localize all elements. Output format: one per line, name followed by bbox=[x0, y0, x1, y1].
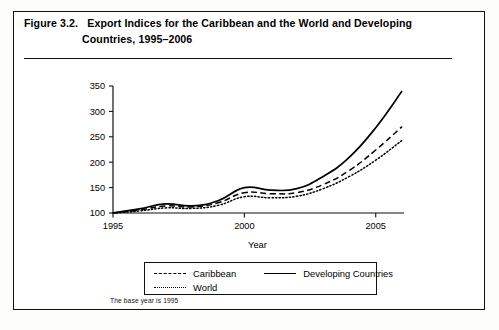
legend-label-world: World bbox=[193, 282, 217, 293]
dotted-line-icon bbox=[154, 282, 186, 292]
legend-item-caribbean[interactable]: Caribbean bbox=[154, 268, 236, 279]
legend-item-developing-countries[interactable]: Developing Countries bbox=[264, 268, 393, 279]
dash-line-icon bbox=[154, 268, 186, 278]
legend-row-1: Caribbean Developing Countries bbox=[154, 266, 376, 280]
legend-row-2: World bbox=[154, 280, 376, 294]
figure-footnote: The base year is 1995 bbox=[110, 297, 178, 304]
figure-number: Figure 3.2. bbox=[24, 17, 78, 29]
legend-item-world[interactable]: World bbox=[154, 282, 217, 293]
title-divider bbox=[24, 58, 452, 59]
legend-label-developing-countries: Developing Countries bbox=[303, 268, 393, 279]
solid-line-icon bbox=[264, 268, 296, 278]
figure-title-line-2: Countries, 1995–2006 bbox=[24, 32, 444, 48]
chart-legend: Caribbean Developing Countries World bbox=[144, 262, 377, 295]
figure-title-block: Figure 3.2. Export Indices for the Carib… bbox=[24, 16, 444, 47]
figure-title-text-1: Export Indices for the Caribbean and the… bbox=[87, 17, 412, 29]
figure-page: Figure 3.2. Export Indices for the Carib… bbox=[0, 0, 499, 330]
figure-title-line-1: Figure 3.2. Export Indices for the Carib… bbox=[24, 16, 444, 32]
legend-label-caribbean: Caribbean bbox=[193, 268, 236, 279]
